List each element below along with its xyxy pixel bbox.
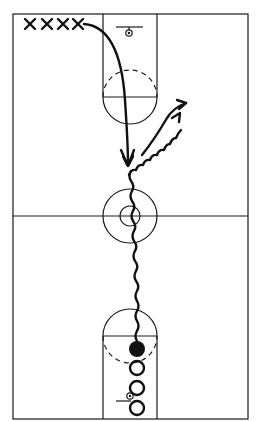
dribble-arrowhead <box>172 113 180 122</box>
player-x-1 <box>25 19 35 29</box>
x-players <box>25 19 83 29</box>
basketball-court-diagram <box>0 0 257 421</box>
player-x-4 <box>73 19 83 29</box>
dribble-path <box>130 171 139 341</box>
ball-handler-filled <box>129 341 145 357</box>
player-o-2 <box>130 381 144 395</box>
player-x-2 <box>42 19 52 29</box>
player-o-1 <box>130 361 144 375</box>
pass-arrow <box>84 24 128 164</box>
top-key <box>103 14 157 124</box>
player-o-3 <box>130 401 144 415</box>
player-x-3 <box>58 19 68 29</box>
